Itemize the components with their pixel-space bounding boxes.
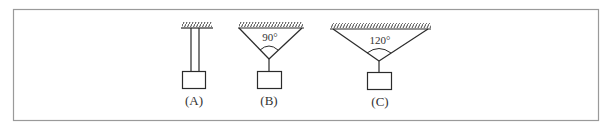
ceiling-hatch xyxy=(182,22,212,27)
weight-box xyxy=(258,72,282,89)
weight-box xyxy=(368,73,392,90)
angle-arc xyxy=(367,49,391,54)
angle-label: 90° xyxy=(262,31,277,43)
figure-a: (A) xyxy=(181,22,213,108)
figure-label-c: (C) xyxy=(371,94,388,109)
figure-label-a: (A) xyxy=(185,93,203,108)
diagram-panel: (A) 90° (B) 120° (C) xyxy=(0,0,605,132)
angle-arc xyxy=(260,46,278,50)
ceiling-hatch xyxy=(331,23,431,28)
figure-c: 120° (C) xyxy=(330,23,431,109)
figure-label-b: (B) xyxy=(260,93,277,108)
weight-box xyxy=(183,72,206,89)
frame-border xyxy=(14,10,599,121)
ceiling-hatch xyxy=(239,22,303,27)
figure-b: 90° (B) xyxy=(238,22,304,108)
angle-label: 120° xyxy=(370,34,391,46)
